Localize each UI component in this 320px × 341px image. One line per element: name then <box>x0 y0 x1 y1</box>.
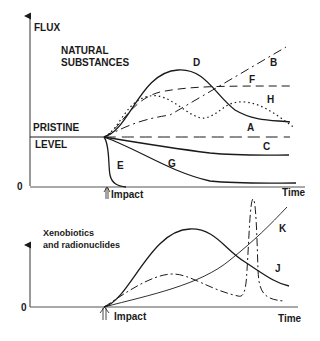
curve-f <box>104 86 290 137</box>
label-g: G <box>168 158 176 169</box>
pristine-label-1: PRISTINE <box>33 122 79 133</box>
label-e: E <box>117 160 124 171</box>
label-b: B <box>270 57 277 68</box>
top-category-label-1: NATURAL <box>61 45 109 56</box>
pristine-label-2: LEVEL <box>35 139 67 150</box>
curve-spike <box>104 199 285 307</box>
top-impact-arrow-icon <box>104 187 110 199</box>
flux-diagram: FLUX NATURAL SUBSTANCES PRISTINE LEVEL 0… <box>0 0 320 341</box>
top-x-axis-label: Time <box>282 187 306 198</box>
top-impact-label: Impact <box>111 189 144 200</box>
curve-d <box>104 70 290 137</box>
label-h: H <box>267 94 274 105</box>
label-c: C <box>263 141 270 152</box>
top-category-label-2: SUBSTANCES <box>61 57 129 68</box>
label-d: D <box>193 57 200 68</box>
top-panel: FLUX NATURAL SUBSTANCES PRISTINE LEVEL 0… <box>17 16 306 200</box>
curve-j <box>104 229 289 307</box>
curve-c-solid <box>104 137 289 155</box>
top-zero-label: 0 <box>17 181 23 192</box>
bottom-zero-label: 0 <box>21 302 27 313</box>
bottom-panel: Xenobiotics and radionuclides 0 Time K J… <box>21 199 302 324</box>
bottom-category-label-1: Xenobiotics <box>43 228 94 238</box>
label-f: F <box>249 74 255 85</box>
label-j: J <box>275 263 281 274</box>
bottom-impact-arrow-icon <box>100 307 109 320</box>
bottom-category-label-2: and radionuclides <box>43 240 120 250</box>
bottom-x-axis-label: Time <box>278 313 302 324</box>
bottom-impact-label: Impact <box>114 311 147 322</box>
label-k: K <box>279 223 287 234</box>
top-y-axis-label: FLUX <box>34 22 60 33</box>
label-a: A <box>247 122 254 133</box>
curve-k <box>104 207 287 307</box>
